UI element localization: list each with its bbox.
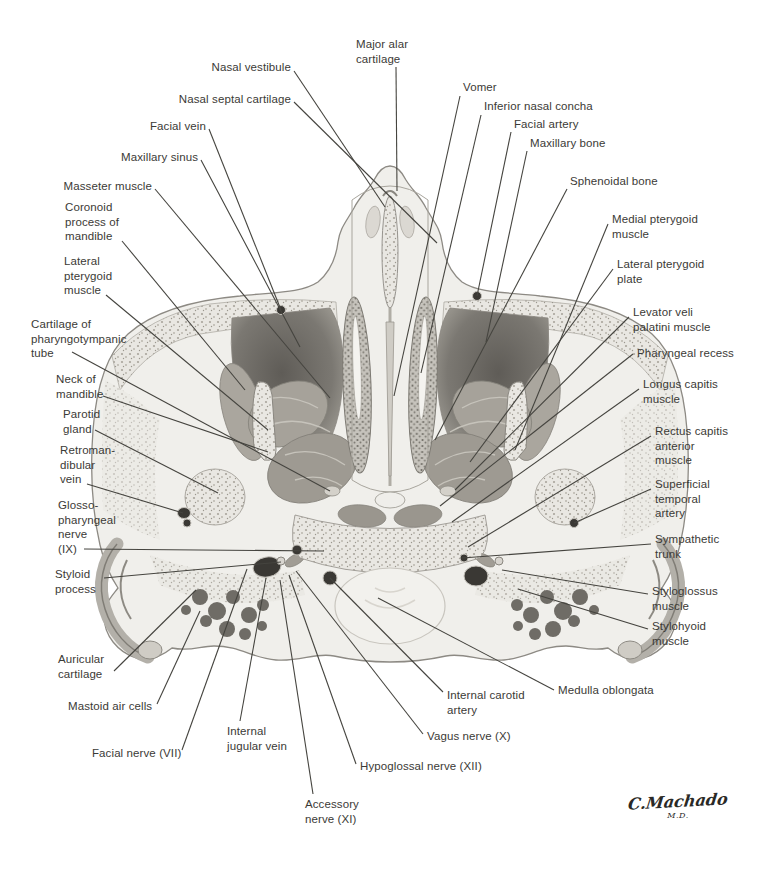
styloid-process-leader-line [104, 562, 281, 578]
auricular-cartilage-leader-line [114, 590, 196, 671]
glossopharyngeal-nerve-ix-leader-line [84, 549, 324, 551]
facial-vein-leader-line [209, 129, 281, 310]
levator-veli-palatini-muscle-leader-line [455, 317, 629, 490]
leader-lines-layer [0, 0, 762, 875]
inferior-nasal-concha-leader-line [421, 115, 481, 373]
sympathetic-trunk-leader-line [462, 544, 651, 558]
stylohyoid-muscle-leader-line [518, 589, 648, 629]
coronoid-process-of-mandible-leader-line [122, 241, 245, 390]
maxillary-sinus-leader-line [201, 160, 300, 347]
major-alar-cartilage-leader-line [396, 67, 397, 191]
artist-signature: C.Machado M.D. [628, 792, 728, 820]
retromandibular-vein-leader-line [87, 484, 183, 513]
nasal-vestibule-leader-line [294, 71, 385, 207]
parotid-gland-leader-line [95, 430, 218, 493]
hypoglossal-nerve-xii-leader-line [289, 575, 356, 764]
maxillary-bone-leader-line [486, 151, 527, 342]
facial-artery-leader-line [477, 132, 511, 296]
figure-canvas: Nasal vestibuleNasal septal cartilageFac… [0, 0, 762, 875]
neck-of-mandible-leader-line [103, 396, 268, 452]
medulla-oblongata-leader-line [378, 598, 554, 690]
longus-capitis-muscle-leader-line [452, 389, 639, 522]
mastoid-air-cells-leader-line [157, 611, 200, 704]
superficial-temporal-artery-leader-line [574, 489, 651, 523]
internal-carotid-artery-leader-line [330, 578, 443, 692]
lateral-pterygoid-muscle-leader-line [106, 295, 268, 430]
lateral-pterygoid-plate-leader-line [470, 269, 613, 462]
nasal-septal-cartilage-leader-line [294, 102, 437, 243]
accessory-nerve-xi-leader-line [280, 580, 313, 794]
masseter-muscle-leader-line [155, 189, 330, 398]
internal-jugular-vein-leader-line [240, 578, 266, 721]
cartilage-of-pharyngotympanic-tube-leader-line [72, 352, 330, 491]
pharyngeal-recess-leader-line [440, 354, 633, 506]
facial-nerve-vii-leader-line [182, 569, 247, 750]
